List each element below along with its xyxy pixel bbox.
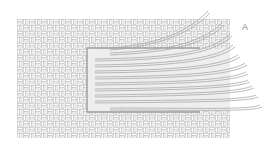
woven-diagram bbox=[0, 0, 271, 149]
panel-label: A bbox=[242, 22, 248, 32]
